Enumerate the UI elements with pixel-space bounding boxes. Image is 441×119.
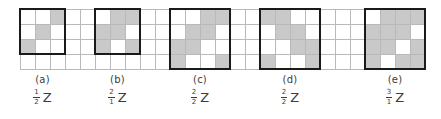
fraction-denominator: 2 <box>33 99 39 107</box>
lattice-vline <box>335 9 336 69</box>
panel-tag-label: (d) <box>250 74 330 86</box>
bold-outline-box <box>94 8 141 55</box>
lattice-vline <box>80 9 81 69</box>
panel-tag-label: (b) <box>78 74 158 86</box>
panel-expression: 22Z <box>250 89 330 106</box>
fraction: 21 <box>108 89 114 106</box>
symbol-z: Z <box>118 91 127 104</box>
symbol-z: Z <box>290 91 299 104</box>
symbol-z: Z <box>200 91 209 104</box>
fraction-numerator: 1 <box>33 89 39 97</box>
lattice-vline <box>155 9 156 69</box>
fraction-denominator: 2 <box>281 99 287 107</box>
lattice-vline <box>350 9 351 69</box>
lattice-vline <box>245 9 246 69</box>
panel-tag-label: (c) <box>160 74 240 86</box>
tiling-patterns-figure: (a)12Z(b)21Z(c)22Z(d)22Z(e)31Z <box>0 0 441 119</box>
fraction: 31 <box>386 89 392 106</box>
panel-caption: (c)22Z <box>160 74 240 106</box>
symbol-z: Z <box>395 91 404 104</box>
bold-outline-box <box>169 8 231 70</box>
fraction: 22 <box>191 89 197 106</box>
panel-caption: (b)21Z <box>78 74 158 106</box>
fraction: 22 <box>281 89 287 106</box>
fraction-numerator: 2 <box>191 89 197 97</box>
fraction-denominator: 2 <box>191 99 197 107</box>
panel-caption: (e)31Z <box>355 74 435 106</box>
fraction-denominator: 1 <box>108 99 114 107</box>
panel-expression: 31Z <box>355 89 435 106</box>
panel-caption: (d)22Z <box>250 74 330 106</box>
panel-expression: 21Z <box>78 89 158 106</box>
fraction-denominator: 1 <box>386 99 392 107</box>
panel-tag-label: (e) <box>355 74 435 86</box>
fraction: 12 <box>33 89 39 106</box>
fraction-numerator: 3 <box>386 89 392 97</box>
bold-outline-box <box>19 8 66 55</box>
panel-caption: (a)12Z <box>3 74 83 106</box>
fraction-numerator: 2 <box>281 89 287 97</box>
bold-outline-box <box>364 8 426 70</box>
panel-expression: 22Z <box>160 89 240 106</box>
bold-outline-box <box>259 8 321 70</box>
panel-expression: 12Z <box>3 89 83 106</box>
symbol-z: Z <box>43 91 52 104</box>
panel-tag-label: (a) <box>3 74 83 86</box>
fraction-numerator: 2 <box>108 89 114 97</box>
